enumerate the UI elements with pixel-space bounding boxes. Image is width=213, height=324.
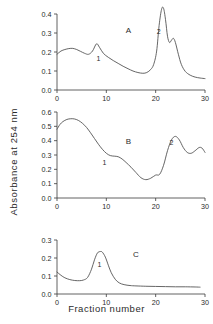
peak-label-1: 1 [97,261,101,268]
panel-A-xtick-label: 0 [55,94,59,103]
panel-A-ytick-label: 0.4 [42,10,52,19]
peak-label-2: 2 [157,28,161,35]
panel-A-xtick-label: 20 [152,94,160,103]
panel-A-ytick-label: 0.0 [42,86,52,95]
panel-B-xtick-label: 20 [152,202,160,211]
panel-label-A: A [126,26,132,35]
panel-B-ytick-label: 0.2 [42,165,52,174]
panel-B-xtick-label: 30 [201,202,209,211]
panel-C-ytick-label: 0.3 [42,236,52,245]
x-axis-title: Fraction number [0,303,213,314]
peak-label-1: 1 [96,55,100,62]
panel-A-xtick-label: 30 [201,94,209,103]
panel-B-ytick-label: 0.5 [42,122,52,131]
panel-B-xtick-label: 0 [55,202,59,211]
panel-C-ytick-label: 0.1 [42,272,52,281]
peak-label-1: 1 [102,159,106,166]
panel-C: 0.00.10.20.30102030C1 [42,236,210,307]
panel-B-ytick-label: 0.6 [42,108,52,117]
panel-A-xtick-label: 10 [102,94,110,103]
peak-label-2: 2 [170,139,174,146]
panel-A: 0.00.10.20.30.40102030A12 [42,7,210,103]
panel-A-ytick-label: 0.1 [42,67,52,76]
plot-canvas: 0.00.10.20.30.40102030A120.00.10.20.30.4… [0,0,213,324]
panel-B-ytick-label: 0.4 [42,136,52,145]
panel-B-axes [57,112,205,198]
panel-A-curve [57,7,205,79]
panel-B-ytick-label: 0.3 [42,151,52,160]
panel-label-B: B [126,137,131,146]
panel-B-curve [57,119,205,180]
panel-B-ytick-label: 0.1 [42,179,52,188]
panel-B-ytick-label: 0.0 [42,194,52,203]
panel-B: 0.00.10.20.30.40.50.60102030B12 [42,108,210,211]
panel-label-C: C [133,250,139,259]
chromatography-figure: Absorbance at 254 nm 0.00.10.20.30.40102… [0,0,213,324]
panel-A-ytick-label: 0.2 [42,48,52,57]
panel-C-curve [57,251,200,287]
panel-A-ytick-label: 0.3 [42,29,52,38]
panel-B-xtick-label: 10 [102,202,110,211]
panel-C-ytick-label: 0.0 [42,290,52,299]
panel-C-ytick-label: 0.2 [42,254,52,263]
